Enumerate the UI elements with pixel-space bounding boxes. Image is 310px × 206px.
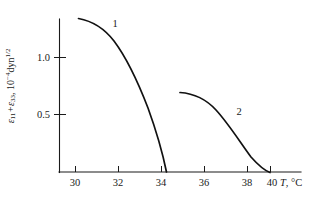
curve-label-2: 2 (236, 106, 241, 117)
x-tick-label-40: 40 (267, 177, 278, 188)
curve-2-path (180, 93, 270, 173)
x-tick-label-30: 30 (70, 177, 81, 188)
x-tick-label-36: 36 (199, 177, 210, 188)
curve-1-path (79, 19, 167, 173)
x-axis-caption-unit: , °C (286, 177, 302, 188)
x-tick-label-34: 34 (156, 177, 167, 188)
x-tick-label-38: 38 (242, 177, 253, 188)
x-tick-label-32: 32 (113, 177, 124, 188)
curve-label-1: 1 (112, 18, 117, 29)
figure-container: 1.0 0.5 30 32 34 36 38 40 T, °C 1 2 ε11+… (0, 0, 310, 206)
plot-area: 1.0 0.5 30 32 34 36 38 40 T, °C 1 2 (0, 0, 310, 206)
y-tick-label-0: 0.5 (37, 109, 50, 120)
y-tick-label-1: 1.0 (37, 52, 50, 63)
x-axis-caption: T, °C (280, 177, 302, 188)
